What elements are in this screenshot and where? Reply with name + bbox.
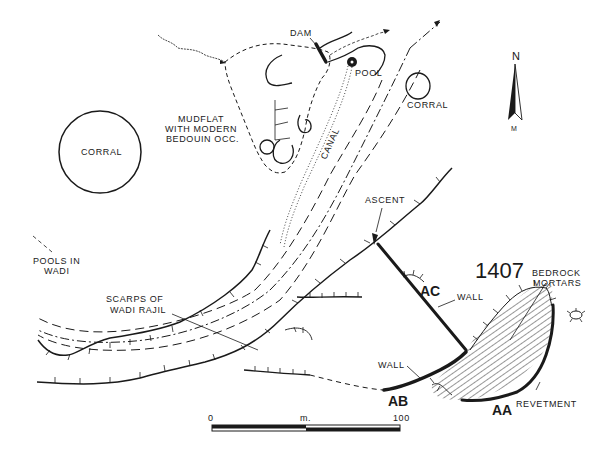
dam-leader (310, 38, 317, 46)
scarp-ticks-south (55, 177, 440, 384)
pools-marker (33, 236, 52, 252)
feature-ac-label: AC (420, 283, 440, 299)
scarp-north (38, 230, 270, 355)
mudflat-label-3: BEDOUIN OCC. (166, 134, 239, 144)
outcrop (570, 311, 582, 319)
path-to-wall-ab (310, 375, 383, 390)
corral-right-label: CORRAL (407, 100, 448, 110)
revetment-label: REVETMENT (516, 399, 577, 409)
feature-ab-label: AB (388, 393, 408, 409)
ascent-label: ASCENT (365, 195, 405, 205)
scarps-label-1: SCARPS OF (106, 294, 163, 304)
svg-text:M: M (511, 125, 517, 132)
bedrock-label-1: BEDROCK (532, 268, 581, 278)
bedrock-label-2: MORTARS (533, 278, 581, 288)
svg-text:N: N (512, 50, 521, 62)
mudflat-label-1: MUDFLAT (178, 114, 224, 124)
corral-right (406, 73, 430, 99)
wadi-channel-2 (38, 48, 410, 342)
canal-line-a (280, 66, 348, 245)
canal-label: CANAL (319, 127, 342, 161)
scarps-label-2: WADI RAJIL (110, 305, 166, 315)
pool-label: POOL (355, 68, 382, 78)
corral-left-label: CORRAL (81, 147, 122, 157)
dam-label: DAM (290, 28, 312, 38)
svg-text:m.: m. (300, 413, 311, 423)
wadi-flow-arrow-icon (434, 20, 440, 27)
site-1407-area (432, 283, 552, 400)
scale-bar: 0 m. 100 (208, 413, 410, 431)
side-scarp-1 (297, 297, 362, 298)
stream-line (158, 35, 225, 62)
wall-ac-label: WALL (457, 292, 484, 302)
pools-label-1: POOLS IN (33, 256, 80, 266)
north-arrow-icon: N M (508, 50, 522, 132)
feature-aa-label: AA (492, 402, 512, 418)
svg-text:100: 100 (393, 413, 410, 423)
mudflat-label-2: WITH MODERN (165, 124, 237, 134)
svg-text:0: 0 (208, 413, 214, 423)
side-scarp-2 (244, 370, 310, 375)
wadi-channel-3 (38, 70, 420, 350)
pools-label-2: WADI (44, 266, 70, 276)
site-number: 1407 (475, 258, 524, 283)
site-plan-map: DAM POOL CANAL CORRAL CORRAL MUDFLAT WIT… (0, 0, 614, 459)
wall-ab-label: WALL (378, 360, 405, 370)
